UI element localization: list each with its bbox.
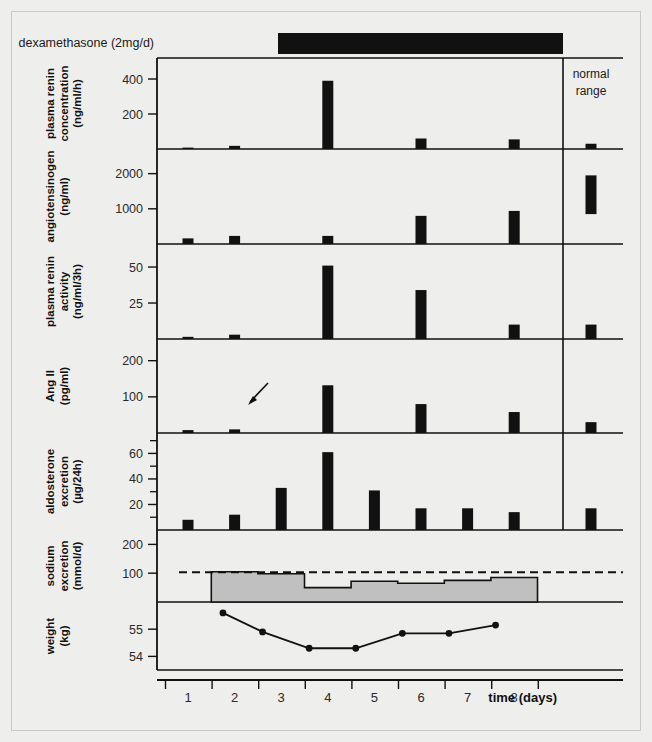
bar-panel-3-day-6 [416,290,427,339]
bar-panel-5-day-7 [462,508,473,530]
bar-panel-5-day-2 [229,515,240,530]
multi-panel-clinical-chart: dexamethasone (2mg/d) normal range plasm… [12,12,640,730]
bar-panel-1-day-8 [509,139,520,149]
figure-inner-frame: dexamethasone (2mg/d) normal range plasm… [11,11,641,731]
panel-7-y-axis-label: (kg) [58,625,70,646]
bar-panel-3-day-4 [322,266,333,339]
panel-5-y-axis-label: excretion [58,456,70,507]
y-tick-label: 55 [129,623,143,637]
x-axis-title: time (days) [488,690,557,705]
bar-panel-4-day-1 [183,430,194,433]
y-tick-label: 1000 [115,202,143,216]
weight-point-day-4 [306,645,313,652]
bar-panel-2-day-8 [509,211,520,244]
y-tick-label: 40 [129,472,143,486]
x-tick-label-day-6: 6 [417,690,424,705]
weight-point-day-3 [259,629,266,636]
bar-panel-5-day-1 [183,520,194,530]
panel-1-y-axis-label: plasma renin [44,68,56,139]
panel-2-y-axis-label: (ng/ml) [58,177,70,215]
panel-1-y-axis-label: concentration [58,65,70,141]
bar-panel-1-day-1 [183,148,194,149]
bar-panel-5-day-8 [509,512,520,530]
y-tick-label: 100 [122,390,143,404]
y-tick-label: 200 [122,354,143,368]
weight-point-day-6 [399,630,406,637]
bar-panel-3-day-8 [509,325,520,339]
panel-5-y-axis-label: aldosterone [44,449,56,514]
normal-range-bar-panel-4 [586,422,597,433]
y-tick-label: 200 [122,108,143,122]
bar-panel-4-day-4 [322,385,333,433]
normal-range-bar-panel-5 [586,508,597,530]
bar-panel-4-day-2 [229,429,240,433]
bar-panel-3-day-2 [229,335,240,339]
panel-4-y-axis-label: Ang II [44,370,56,402]
normal-range-bar-panel-1 [586,144,597,149]
y-tick-label: 200 [122,538,143,552]
y-axis-ticks: 4002002000100050252001006040202001005554 [115,73,157,664]
y-tick-label: 50 [129,261,143,275]
bar-panel-2-day-4 [322,236,333,244]
figure-container: dexamethasone (2mg/d) normal range plasm… [0,0,652,742]
panel-1-y-axis-label: (ng/ml/h) [71,79,83,128]
bar-panel-3-day-1 [183,337,194,339]
panel-4-y-axis-label: (pg/ml) [58,367,70,405]
x-tick-label-day-2: 2 [231,690,238,705]
y-tick-label: 60 [129,447,143,461]
arrow-marker-icon [248,383,268,405]
y-tick-label: 2000 [115,167,143,181]
x-tick-label-day-1: 1 [184,690,191,705]
panel-3-y-axis-label: (ng/ml/3h) [71,264,83,319]
y-tick-label: 20 [129,498,143,512]
x-tick-label-day-3: 3 [278,690,285,705]
x-tick-label-day-7: 7 [464,690,471,705]
bar-panel-2-day-6 [416,216,427,244]
panel-6-y-axis-label: excretion [58,540,70,591]
bar-panel-1-day-2 [229,146,240,149]
panel-5-y-axis-label: (µg/24h) [71,459,83,503]
normal-range-label-line1: normal [573,67,610,81]
bar-panel-5-day-4 [322,452,333,530]
bar-panel-5-day-5 [369,490,380,530]
bar-panel-2-day-1 [183,238,194,244]
panel-2-y-axis-label: angiotensinogen [44,151,56,243]
treatment-duration-bar [278,33,563,54]
weight-point-day-8 [492,622,499,629]
y-axis-labels: plasma reninconcentration(ng/ml/h)angiot… [44,65,83,655]
panel-3-y-axis-label: plasma renin [44,256,56,327]
y-tick-label: 25 [129,297,143,311]
normal-range-bar-panel-2 [586,175,597,214]
y-tick-label: 54 [129,650,143,664]
x-tick-label-day-4: 4 [324,690,331,705]
weight-point-day-2 [220,609,227,616]
data-series-group [179,81,623,652]
bar-panel-5-day-6 [416,508,427,530]
normal-range-label-line2: range [576,84,607,98]
bar-panel-1-day-6 [416,139,427,150]
x-tick-label-day-5: 5 [371,690,378,705]
bar-panel-4-day-8 [509,412,520,433]
bar-panel-5-day-3 [276,488,287,530]
bar-panel-1-day-4 [322,81,333,149]
bar-panel-4-day-6 [416,404,427,433]
bar-panel-2-day-2 [229,236,240,244]
weight-point-day-7 [446,630,453,637]
normal-range-bar-panel-3 [586,325,597,339]
panel-6-y-axis-label: sodium [44,546,56,587]
panel-3-y-axis-label: activity [58,271,70,311]
treatment-label: dexamethasone (2mg/d) [19,36,155,50]
y-tick-label: 400 [122,73,143,87]
panel-6-y-axis-label: (mmol/d) [71,542,83,591]
sodium-excretion-step-area [211,572,537,602]
y-tick-label: 100 [122,567,143,581]
panel-7-y-axis-label: weight [44,618,56,656]
weight-point-day-5 [352,645,359,652]
